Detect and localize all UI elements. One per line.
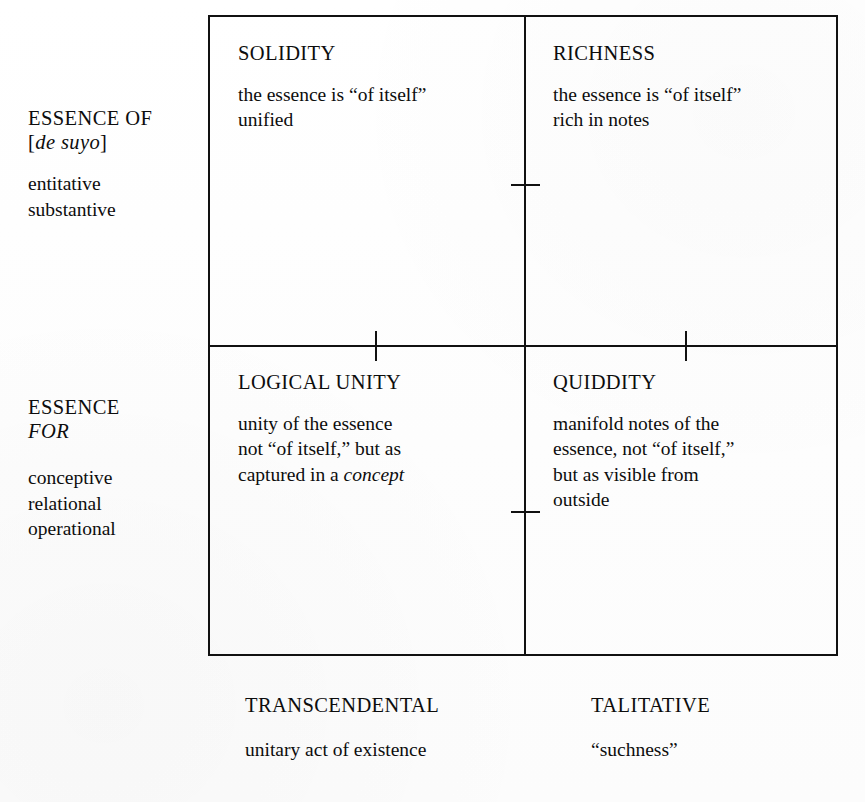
row-essence-of-italic: de suyo (35, 131, 100, 153)
cell-quiddity-line3: but as visible from (553, 464, 699, 485)
cell-quiddity-line1: manifold notes of the (553, 413, 719, 434)
column-label-talitative-sub: “suchness” (591, 739, 710, 761)
tick-mark-upper-axis (511, 184, 540, 186)
cell-body-richness: the essence is “of itself” rich in notes (553, 82, 825, 133)
row-essence-for-italic: FOR (28, 420, 69, 442)
cell-title-solidity: SOLIDITY (238, 42, 506, 65)
cell-body-logical-unity: unity of the essence not “of itself,” bu… (238, 411, 506, 487)
cell-richness-line2: rich in notes (553, 109, 649, 130)
horizontal-divider (210, 345, 836, 347)
tick-mark-lower-axis (511, 511, 540, 513)
cell-quiddity: QUIDDITY manifold notes of the essence, … (553, 371, 825, 512)
cell-solidity-line1: the essence is “of itself” (238, 84, 426, 105)
cell-solidity-line2: unified (238, 109, 293, 130)
cell-title-logical-unity: LOGICAL UNITY (238, 371, 506, 394)
row-essence-of-line1: ESSENCE OF (28, 107, 152, 129)
tick-mark-right-axis (685, 331, 687, 361)
cell-quiddity-line4: outside (553, 489, 609, 510)
cell-title-quiddity: QUIDDITY (553, 371, 825, 394)
row-label-essence-of: ESSENCE OF [de suyo] entitative substant… (28, 106, 218, 222)
vertical-divider (524, 17, 526, 654)
tick-mark-left-axis (375, 331, 377, 361)
row-label-essence-of-sub: entitative substantive (28, 171, 218, 222)
cell-richness: RICHNESS the essence is “of itself” rich… (553, 42, 825, 133)
cell-body-quiddity: manifold notes of the essence, not “of i… (553, 411, 825, 512)
row-label-essence-for-head: ESSENCE FOR (28, 395, 218, 443)
cell-logical-unity: LOGICAL UNITY unity of the essence not “… (238, 371, 506, 487)
row-label-essence-for-sub: conceptive relational operational (28, 465, 218, 541)
cell-body-solidity: the essence is “of itself” unified (238, 82, 506, 133)
column-label-talitative: TALITATIVE “suchness” (591, 694, 710, 761)
cell-logical-unity-line3-italic: concept (344, 464, 405, 485)
column-label-transcendental-head: TRANSCENDENTAL (245, 694, 439, 717)
row-essence-of-sub1: entitative (28, 173, 101, 194)
row-essence-for-sub3: operational (28, 518, 116, 539)
cell-quiddity-line2: essence, not “of itself,” (553, 438, 734, 459)
column-label-transcendental-sub: unitary act of existence (245, 739, 439, 761)
column-label-talitative-head: TALITATIVE (591, 694, 710, 717)
cell-logical-unity-line1: unity of the essence (238, 413, 392, 434)
row-essence-for-sub2: relational (28, 493, 102, 514)
row-essence-of-bracket-close: ] (100, 131, 107, 153)
row-label-essence-of-head: ESSENCE OF [de suyo] (28, 106, 218, 154)
row-essence-for-sub1: conceptive (28, 467, 112, 488)
row-essence-of-sub2: substantive (28, 199, 116, 220)
row-label-essence-for: ESSENCE FOR conceptive relational operat… (28, 395, 218, 541)
cell-logical-unity-line2: not “of itself,” but as (238, 438, 401, 459)
cell-logical-unity-line3-prefix: captured in a (238, 464, 344, 485)
column-label-transcendental: TRANSCENDENTAL unitary act of existence (245, 694, 439, 761)
cell-solidity: SOLIDITY the essence is “of itself” unif… (238, 42, 506, 133)
row-essence-for-line1: ESSENCE (28, 396, 120, 418)
cell-title-richness: RICHNESS (553, 42, 825, 65)
cell-richness-line1: the essence is “of itself” (553, 84, 741, 105)
